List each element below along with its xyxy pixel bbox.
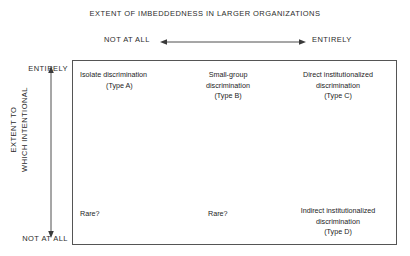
matrix-cell-type-b-line2: discrimination bbox=[176, 81, 280, 92]
column-axis-high-label: ENTIRELY bbox=[312, 35, 352, 44]
column-axis-low-label: NOT AT ALL bbox=[104, 35, 150, 44]
matrix-cell-type-b: Small-group discrimination (Type B) bbox=[176, 70, 280, 102]
matrix-cell-rare-1-line1: Rare? bbox=[80, 209, 100, 220]
matrix-cell-type-a: Isolate discrimination (Type A) bbox=[80, 70, 147, 91]
matrix-cell-type-c-line1: Direct institutionalized bbox=[284, 70, 392, 81]
row-axis-title-line1: EXTENT TO bbox=[9, 107, 18, 153]
matrix-cell-type-a-line2: (Type A) bbox=[80, 81, 147, 92]
row-axis-title-line2: WHICH INTENTIONAL bbox=[19, 87, 28, 172]
matrix-cell-type-d-line2: discrimination bbox=[284, 217, 392, 228]
matrix-cell-rare-2-line1: Rare? bbox=[208, 209, 228, 220]
matrix-cell-type-b-line3: (Type B) bbox=[176, 91, 280, 102]
row-axis-title: EXTENT TO WHICH INTENTIONAL bbox=[9, 70, 30, 190]
column-axis-scale: NOT AT ALL ENTIRELY bbox=[0, 34, 410, 50]
typology-diagram: EXTENT OF IMBEDDEDNESS IN LARGER ORGANIZ… bbox=[0, 0, 410, 256]
matrix-cell-type-c-line2: discrimination bbox=[284, 81, 392, 92]
matrix-cell-type-b-line1: Small-group bbox=[176, 70, 280, 81]
matrix-cell-type-d-line1: Indirect institutionalized bbox=[284, 206, 392, 217]
matrix-cell-type-c-line3: (Type C) bbox=[284, 91, 392, 102]
matrix-cell-type-d: Indirect institutionalized discriminatio… bbox=[284, 206, 392, 238]
horizontal-double-arrow-icon bbox=[160, 34, 306, 50]
matrix-cell-type-c: Direct institutionalized discrimination … bbox=[284, 70, 392, 102]
vertical-double-arrow-icon bbox=[43, 66, 59, 238]
matrix-cell-rare-1: Rare? bbox=[80, 209, 100, 220]
column-axis-title: EXTENT OF IMBEDDEDNESS IN LARGER ORGANIZ… bbox=[0, 9, 410, 18]
typology-matrix: Isolate discrimination (Type A) Small-gr… bbox=[72, 60, 397, 245]
matrix-cell-type-d-line3: (Type D) bbox=[284, 227, 392, 238]
matrix-cell-type-a-line1: Isolate discrimination bbox=[80, 70, 147, 81]
matrix-cell-rare-2: Rare? bbox=[208, 209, 228, 220]
